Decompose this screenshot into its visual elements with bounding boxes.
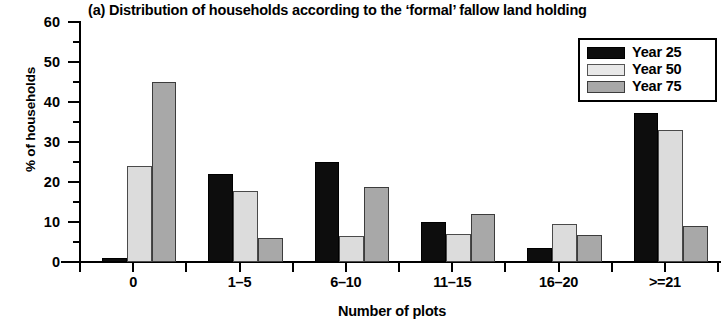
legend-label: Year 75 xyxy=(632,79,681,94)
x-tick-mark-center xyxy=(558,262,560,272)
y-tick-minor-mark xyxy=(73,41,80,43)
x-tick-mark xyxy=(717,262,719,272)
chart-title: (a) Distribution of households according… xyxy=(88,1,587,19)
x-tick-mark xyxy=(611,262,613,272)
y-tick-label: 60 xyxy=(44,15,60,30)
bar-610-year-75 xyxy=(364,187,389,262)
x-category-label: >=21 xyxy=(649,275,681,290)
bar-0-year-25 xyxy=(102,258,127,262)
x-category-label: 6–10 xyxy=(330,275,361,290)
bar-1115-year-50 xyxy=(446,234,471,262)
legend-label: Year 25 xyxy=(632,45,681,60)
bar-21-year-75 xyxy=(683,226,708,262)
y-tick-minor-mark xyxy=(73,81,80,83)
chart-legend: Year 25Year 50Year 75 xyxy=(578,38,717,102)
bar-1620-year-75 xyxy=(577,235,602,262)
x-tick-mark xyxy=(398,262,400,272)
y-tick-minor-mark xyxy=(73,121,80,123)
legend-item-year-25: Year 25 xyxy=(587,44,708,61)
y-tick-minor-mark xyxy=(73,201,80,203)
x-tick-mark-center xyxy=(451,262,453,272)
bar-610-year-25 xyxy=(315,162,340,262)
bar-0-year-50 xyxy=(127,166,152,262)
legend-swatch-icon xyxy=(587,47,625,59)
y-tick-label: 20 xyxy=(44,175,60,190)
x-category-label: 0 xyxy=(129,275,137,290)
y-tick-mark xyxy=(68,101,80,103)
bar-0-year-75 xyxy=(152,82,177,262)
bar-15-year-25 xyxy=(208,174,233,262)
x-tick-mark-center xyxy=(132,262,134,272)
y-tick-mark xyxy=(68,61,80,63)
bar-1115-year-75 xyxy=(471,214,496,262)
y-tick-label: 10 xyxy=(44,215,60,230)
x-category-label: 16–20 xyxy=(539,275,578,290)
x-category-label: 11–15 xyxy=(433,275,471,290)
y-tick-label: 30 xyxy=(44,135,60,150)
x-tick-mark xyxy=(292,262,294,272)
legend-swatch-icon xyxy=(587,64,625,76)
x-tick-mark xyxy=(79,262,81,272)
legend-item-year-75: Year 75 xyxy=(587,78,708,95)
x-tick-mark xyxy=(185,262,187,272)
x-axis-label: Number of plots xyxy=(60,303,724,319)
x-tick-mark xyxy=(504,262,506,272)
y-tick-mark xyxy=(68,221,80,223)
bar-1620-year-50 xyxy=(552,224,577,262)
y-tick-minor-mark xyxy=(73,161,80,163)
x-tick-mark-center xyxy=(664,262,666,272)
legend-label: Year 50 xyxy=(632,62,681,77)
y-tick-label: 50 xyxy=(44,55,60,70)
bar-1620-year-25 xyxy=(527,248,552,262)
y-tick-label: 0 xyxy=(52,255,60,270)
legend-swatch-icon xyxy=(587,81,625,93)
x-tick-mark-center xyxy=(239,262,241,272)
x-tick-mark-center xyxy=(345,262,347,272)
bar-15-year-50 xyxy=(233,191,258,262)
y-tick-mark xyxy=(68,181,80,183)
y-tick-label: 40 xyxy=(44,95,60,110)
y-tick-minor-mark xyxy=(73,241,80,243)
bar-21-year-50 xyxy=(658,130,683,262)
bar-21-year-25 xyxy=(634,113,659,262)
bar-610-year-50 xyxy=(339,236,364,262)
y-axis-label: % of households xyxy=(23,40,38,200)
y-tick-mark xyxy=(68,141,80,143)
y-tick-mark xyxy=(68,21,80,23)
x-category-label: 1–5 xyxy=(228,275,251,290)
bar-1115-year-25 xyxy=(421,222,446,262)
chart-figure: (a) Distribution of households according… xyxy=(0,0,724,328)
bar-15-year-75 xyxy=(258,238,283,262)
legend-item-year-50: Year 50 xyxy=(587,61,708,78)
